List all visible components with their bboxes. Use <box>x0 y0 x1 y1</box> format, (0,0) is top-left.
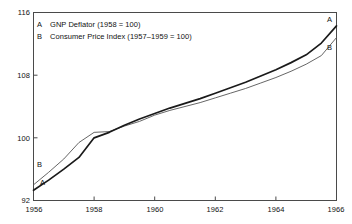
curve-label-a-right: A <box>327 15 332 24</box>
x-tick-label-1964: 1964 <box>261 205 291 214</box>
chart-legend: A GNP Deflator (1958 = 100) B Consumer P… <box>37 20 192 41</box>
legend-item-a: A GNP Deflator (1958 = 100) <box>37 20 192 29</box>
x-tick-label-1962: 1962 <box>200 205 230 214</box>
legend-item-b: B Consumer Price Index (1957–1959 = 100) <box>37 32 192 41</box>
x-tick-label-1958: 1958 <box>79 205 109 214</box>
legend-label-b: Consumer Price Index (1957–1959 = 100) <box>50 32 192 41</box>
legend-key-a: A <box>37 20 50 29</box>
x-tick-label-1956: 1956 <box>19 205 49 214</box>
legend-label-a: GNP Deflator (1958 = 100) <box>50 20 141 29</box>
x-tick-label-1966: 1966 <box>321 205 351 214</box>
legend-key-b: B <box>37 32 50 41</box>
y-tick-label-108: 108 <box>8 71 30 80</box>
x-tick-label-1960: 1960 <box>140 205 170 214</box>
y-tick-label-100: 100 <box>8 134 30 143</box>
y-tick-label-92: 92 <box>8 196 30 205</box>
curve-label-a-left: A <box>40 178 45 187</box>
y-tick-label-116: 116 <box>8 8 30 17</box>
curve-label-b-right: B <box>327 43 332 52</box>
chart-figure: 116 108 100 92 1956 1958 1960 1962 1964 … <box>0 0 352 224</box>
curve-label-b-left: B <box>37 160 42 169</box>
